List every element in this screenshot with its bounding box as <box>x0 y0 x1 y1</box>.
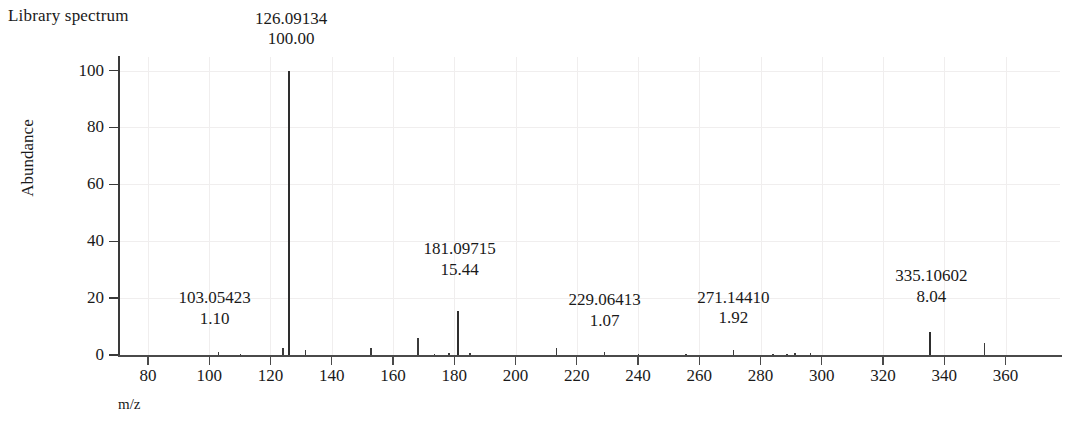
page-title: Library spectrum <box>8 6 129 26</box>
y-tick-mark <box>109 127 118 128</box>
x-tick-mark <box>821 356 822 365</box>
gridline-horizontal <box>119 127 1060 128</box>
x-tick-mark <box>147 356 148 365</box>
y-tick-mark <box>109 297 118 298</box>
x-tick-mark <box>944 356 945 365</box>
x-tick-label: 300 <box>792 367 852 384</box>
y-tick-label: 80 <box>44 118 104 135</box>
gridline-vertical <box>454 57 455 355</box>
x-tick-mark <box>331 356 332 365</box>
x-tick-label: 260 <box>669 367 729 384</box>
x-tick-label: 140 <box>302 367 362 384</box>
peak-annotation: 271.144101.92 <box>653 288 813 329</box>
peak-annotation-mz: 126.09134 <box>211 9 371 30</box>
x-tick-mark <box>882 356 883 365</box>
y-tick-label: 0 <box>44 346 104 363</box>
x-tick-mark <box>454 356 455 365</box>
x-tick-mark <box>392 356 393 365</box>
x-tick-mark <box>637 356 638 365</box>
y-axis-line <box>118 56 120 356</box>
peak-annotation-mz: 271.14410 <box>653 288 813 309</box>
x-tick-label: 100 <box>179 367 239 384</box>
x-tick-mark <box>576 356 577 365</box>
spectrum-peak <box>457 311 459 355</box>
peak-annotation-mz: 335.10602 <box>851 266 1011 287</box>
y-tick-label: 40 <box>44 232 104 249</box>
x-tick-mark <box>699 356 700 365</box>
peak-annotation: 335.106028.04 <box>851 266 1011 307</box>
x-tick-mark <box>209 356 210 365</box>
y-tick-mark <box>109 70 118 71</box>
peak-annotation: 126.09134100.00 <box>211 9 371 50</box>
gridline-vertical <box>1006 57 1007 355</box>
peak-annotation-abundance: 15.44 <box>380 260 540 281</box>
x-tick-mark <box>760 356 761 365</box>
gridline-vertical <box>332 57 333 355</box>
spectrum-peak <box>556 348 558 355</box>
x-tick-label: 180 <box>424 367 484 384</box>
peak-annotation-abundance: 8.04 <box>851 287 1011 308</box>
y-tick-mark <box>109 184 118 185</box>
y-tick-mark <box>109 354 118 355</box>
x-tick-label: 280 <box>731 367 791 384</box>
x-axis-title: m/z <box>118 396 141 413</box>
spectrum-peak <box>417 338 419 355</box>
spectrum-peak <box>370 348 372 355</box>
x-tick-mark <box>1005 356 1006 365</box>
x-tick-mark <box>515 356 516 365</box>
x-tick-mark <box>270 356 271 365</box>
y-tick-label: 100 <box>44 62 104 79</box>
y-axis-title: Abundance <box>18 98 38 218</box>
x-tick-label: 240 <box>608 367 668 384</box>
gridline-vertical <box>822 57 823 355</box>
gridline-vertical <box>393 57 394 355</box>
x-tick-label: 200 <box>486 367 546 384</box>
gridline-horizontal <box>119 184 1060 185</box>
peak-annotation-abundance: 100.00 <box>211 29 371 50</box>
y-tick-label: 20 <box>44 289 104 306</box>
y-tick-label: 60 <box>44 175 104 192</box>
x-tick-label: 320 <box>853 367 913 384</box>
peak-annotation: 181.0971515.44 <box>380 239 540 280</box>
gridline-vertical <box>944 57 945 355</box>
x-tick-label: 120 <box>240 367 300 384</box>
spectrum-peak <box>282 348 284 355</box>
x-tick-label: 360 <box>976 367 1036 384</box>
mass-spectrum-figure: Library spectrum Abundance m/z 020406080… <box>0 0 1080 424</box>
x-axis-line <box>118 355 1062 357</box>
gridline-horizontal <box>119 71 1060 72</box>
gridline-vertical <box>883 57 884 355</box>
spectrum-peak <box>984 343 986 355</box>
gridline-vertical <box>516 57 517 355</box>
peak-annotation: 103.054231.10 <box>135 288 295 329</box>
peak-annotation-abundance: 1.92 <box>653 308 813 329</box>
x-tick-label: 220 <box>547 367 607 384</box>
spectrum-peak <box>929 332 931 355</box>
x-tick-label: 80 <box>118 367 178 384</box>
gridline-horizontal <box>119 241 1060 242</box>
peak-annotation-mz: 103.05423 <box>135 288 295 309</box>
y-tick-mark <box>109 241 118 242</box>
peak-annotation-mz: 181.09715 <box>380 239 540 260</box>
x-tick-label: 340 <box>914 367 974 384</box>
x-tick-label: 160 <box>363 367 423 384</box>
peak-annotation-abundance: 1.10 <box>135 309 295 330</box>
